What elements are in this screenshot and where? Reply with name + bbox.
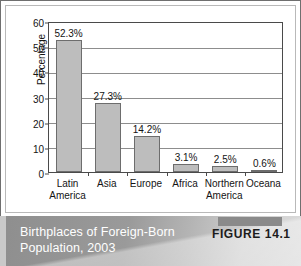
y-tick-mark <box>45 148 49 149</box>
x-tick-mark <box>167 172 168 176</box>
y-tick-label: 30 <box>33 93 44 104</box>
gridline <box>49 148 282 149</box>
figure-caption-line-2: Population, 2003 <box>20 240 210 256</box>
y-tick-label: 60 <box>33 18 44 29</box>
y-tick-mark <box>45 123 49 124</box>
bar: 2.5% <box>212 166 238 172</box>
figure-number-tab <box>218 217 282 226</box>
x-tick-mark <box>127 172 128 176</box>
bar: 14.2% <box>134 136 160 172</box>
caption-band: Birthplaces of Foreign-Born Population, … <box>0 216 301 266</box>
y-tick-mark <box>45 48 49 49</box>
x-axis-category-label-line: America <box>41 190 94 202</box>
x-axis-category-label-line: America <box>198 190 251 202</box>
chart-panel: Percentage 0102030405060 52.3%27.3%14.2%… <box>5 5 296 213</box>
bar-value-label: 3.1% <box>175 152 198 163</box>
bar: 27.3% <box>95 103 121 172</box>
x-tick-mark <box>206 172 207 176</box>
plot-area: 0102030405060 52.3%27.3%14.2%3.1%2.5%0.6… <box>48 22 283 173</box>
bar-value-label: 0.6% <box>253 158 276 169</box>
y-tick-mark <box>45 73 49 74</box>
y-tick-mark <box>45 174 49 175</box>
y-tick-label: 20 <box>33 118 44 129</box>
bar: 52.3% <box>56 40 82 172</box>
x-tick-mark <box>88 172 89 176</box>
bar-value-label: 52.3% <box>54 28 82 39</box>
y-tick-label: 10 <box>33 143 44 154</box>
y-tick-label: 50 <box>33 43 44 54</box>
caption-left-edge <box>0 216 6 266</box>
figure-container: Percentage 0102030405060 52.3%27.3%14.2%… <box>0 0 301 266</box>
y-tick-label: 40 <box>33 68 44 79</box>
bar: 0.6% <box>251 170 277 172</box>
bar-value-label: 2.5% <box>214 154 237 165</box>
x-axis-category-label-line: Oceana <box>237 178 290 190</box>
figure-caption-line-1: Birthplaces of Foreign-Born <box>20 224 210 240</box>
y-tick-mark <box>45 23 49 24</box>
x-axis-category-label: Oceana <box>237 178 290 190</box>
gridline <box>49 48 282 49</box>
gridline <box>49 123 282 124</box>
figure-number-label: FIGURE 14.1 <box>212 227 296 241</box>
y-tick-mark <box>45 98 49 99</box>
x-tick-mark <box>245 172 246 176</box>
bar-value-label: 27.3% <box>94 91 122 102</box>
bar: 3.1% <box>173 164 199 172</box>
bar-value-label: 14.2% <box>133 124 161 135</box>
gridline <box>49 73 282 74</box>
figure-caption: Birthplaces of Foreign-Born Population, … <box>20 224 210 256</box>
gridline <box>49 98 282 99</box>
